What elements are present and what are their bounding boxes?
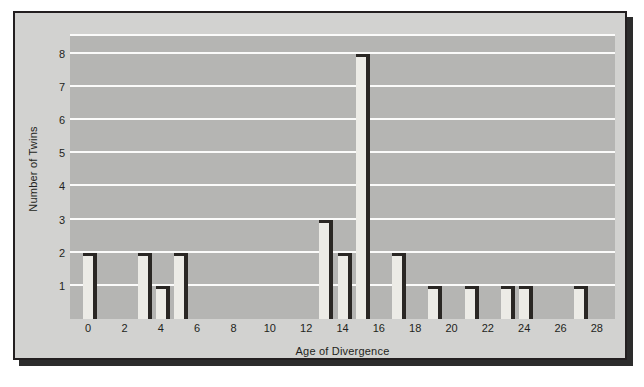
bar <box>465 286 475 319</box>
gridline <box>70 184 615 186</box>
bar-edge <box>166 286 170 319</box>
bar-cap <box>174 253 188 256</box>
gridline-top <box>70 34 615 36</box>
bar <box>156 286 166 319</box>
y-tick-label: 3 <box>41 215 65 226</box>
x-tick-label: 6 <box>182 323 212 334</box>
bar-edge <box>329 220 333 319</box>
x-tick-label: 16 <box>364 323 394 334</box>
x-tick-label: 4 <box>146 323 176 334</box>
bar-cap <box>338 253 352 256</box>
bar-cap <box>574 286 588 289</box>
bar <box>83 253 93 319</box>
bar-cap <box>138 253 152 256</box>
y-tick-label: 8 <box>41 49 65 60</box>
x-tick-label: 10 <box>255 323 285 334</box>
bar-edge <box>402 253 406 319</box>
bar-edge <box>529 286 533 319</box>
x-tick-label: 28 <box>582 323 612 334</box>
bar-edge <box>366 54 370 319</box>
bar <box>519 286 529 319</box>
y-axis-title: Number of Twins <box>27 94 39 244</box>
x-tick-label: 8 <box>219 323 249 334</box>
bar-edge <box>184 253 188 319</box>
bar-edge <box>511 286 515 319</box>
bar-edge <box>148 253 152 319</box>
x-tick-label: 12 <box>291 323 321 334</box>
gridline <box>70 118 615 120</box>
y-tick-label: 7 <box>41 82 65 93</box>
x-tick-label: 22 <box>473 323 503 334</box>
bar-cap <box>428 286 442 289</box>
bar <box>138 253 148 319</box>
x-tick-label: 14 <box>328 323 358 334</box>
bar <box>392 253 402 319</box>
bar-edge <box>348 253 352 319</box>
bar-cap <box>392 253 406 256</box>
bar-cap <box>501 286 515 289</box>
bar-edge <box>475 286 479 319</box>
gridline <box>70 151 615 153</box>
bar-edge <box>93 253 97 319</box>
bar-cap <box>83 253 97 256</box>
bar-cap <box>519 286 533 289</box>
plot-area <box>70 34 615 319</box>
bar <box>428 286 438 319</box>
x-axis-title: Age of Divergence <box>70 345 615 357</box>
chart-figure: 12345678 Number of Twins 024681012141618… <box>0 0 644 387</box>
gridline <box>70 85 615 87</box>
y-tick-label: 1 <box>41 281 65 292</box>
bar-edge <box>584 286 588 319</box>
x-tick-label: 0 <box>73 323 103 334</box>
y-tick-label: 4 <box>41 181 65 192</box>
bar-cap <box>319 220 333 223</box>
x-tick-label: 26 <box>546 323 576 334</box>
y-tick-label: 5 <box>41 148 65 159</box>
bar <box>574 286 584 319</box>
gridline <box>70 218 615 220</box>
figure-frame: 12345678 Number of Twins 024681012141618… <box>13 11 627 360</box>
bar-cap <box>465 286 479 289</box>
bar <box>319 220 329 319</box>
bar <box>501 286 511 319</box>
bar-cap <box>356 54 370 57</box>
gridline <box>70 52 615 54</box>
x-tick-label: 20 <box>437 323 467 334</box>
y-tick-label: 2 <box>41 248 65 259</box>
bar-edge <box>438 286 442 319</box>
bar <box>174 253 184 319</box>
bar <box>356 54 366 319</box>
bar <box>338 253 348 319</box>
x-tick-label: 18 <box>400 323 430 334</box>
y-tick-label: 6 <box>41 115 65 126</box>
bar-cap <box>156 286 170 289</box>
x-tick-label: 2 <box>110 323 140 334</box>
x-axis-ticks: 0246810121416182022242628 <box>70 323 615 339</box>
x-tick-label: 24 <box>509 323 539 334</box>
y-axis-ticks: 12345678 <box>35 34 65 319</box>
